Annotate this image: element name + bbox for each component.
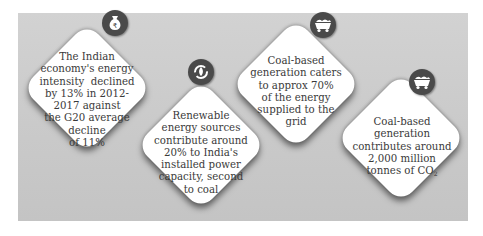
card-3-text: Coal-based generation caters to approx 7… — [236, 55, 356, 129]
card-2-line: capacity, second — [140, 171, 262, 183]
card-1-text: The Indian economy's energy intensity de… — [28, 51, 146, 149]
card-4-line: contributes around — [345, 141, 459, 153]
coal-cart-icon — [409, 69, 435, 95]
renewable-cycle-icon — [188, 59, 214, 85]
card-2-line: to coal — [140, 184, 262, 196]
card-4-line: Coal-based — [345, 116, 459, 128]
card-4-text: Coal-based generation contributes around… — [345, 116, 459, 180]
card-4-line: generation — [345, 128, 459, 140]
co2-text: tonnes of CO — [367, 165, 434, 176]
card-2-line: installed power — [140, 159, 262, 171]
card-1-line: The Indian — [28, 51, 146, 63]
card-1-line: decline — [28, 125, 146, 137]
coal-cart-icon — [310, 12, 336, 38]
card-1-line: by 13% in 2012- — [28, 88, 146, 100]
co2-subscript: 2 — [434, 170, 438, 177]
card-3-line: to approx 70% — [236, 80, 356, 92]
card-1-line: 2017 against — [28, 100, 146, 112]
card-4-line: tonnes of CO2 — [345, 165, 459, 180]
card-2-line: contribute around — [140, 135, 262, 147]
card-1-line: intensity declined — [28, 76, 146, 88]
card-3-line: of the energy — [236, 92, 356, 104]
card-3-line: supplied to the — [236, 104, 356, 116]
card-3-line: grid — [236, 116, 356, 128]
card-3-line: generation caters — [236, 67, 356, 79]
card-3-line: Coal-based — [236, 55, 356, 67]
card-1-line: economy's energy — [28, 63, 146, 75]
card-4-line: 2,000 million — [345, 153, 459, 165]
svg-text:₹: ₹ — [113, 22, 118, 30]
card-1-line: the G20 average — [28, 112, 146, 124]
card-1-line: of 11% — [28, 137, 146, 149]
money-bag-rupee-icon: ₹ — [102, 10, 128, 36]
card-2-line: 20% to India's — [140, 147, 262, 159]
